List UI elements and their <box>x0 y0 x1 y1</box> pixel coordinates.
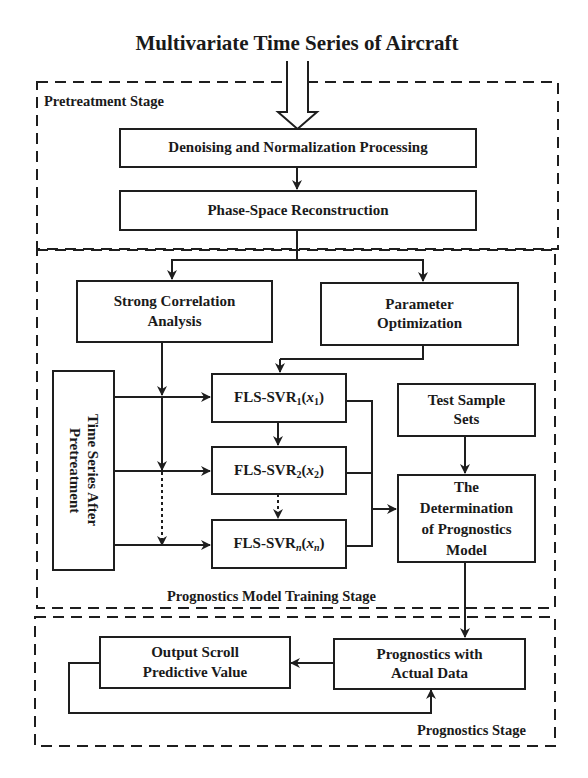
prognostics-stage-label: Prognostics Stage <box>417 722 526 739</box>
time-series-after-box: Time Series After Pretreatment <box>52 370 115 571</box>
phase-space-label: Phase-Space Reconstruction <box>207 201 388 221</box>
phase-space-box: Phase-Space Reconstruction <box>119 190 477 231</box>
output-scroll-line1: Output Scroll <box>151 643 239 663</box>
fls-svr-2-label: FLS-SVR2(x2) <box>234 461 324 481</box>
fls-svr-n-box: FLS-SVRn(xn) <box>211 519 347 569</box>
time-series-line2: Pretreatment <box>65 414 84 526</box>
output-scroll-line2: Predictive Value <box>143 663 247 683</box>
determination-line1: The <box>454 477 479 498</box>
output-scroll-box: Output Scroll Predictive Value <box>99 636 291 689</box>
parameter-optimization-line2: Optimization <box>377 314 462 334</box>
fls-svr-1-label: FLS-SVR1(x1) <box>234 388 324 408</box>
determination-line4: Model <box>446 540 487 561</box>
prognostics-actual-line1: Prognostics with <box>377 645 483 665</box>
training-stage-label: Prognostics Model Training Stage <box>167 588 376 605</box>
determination-box: The Determination of Prognostics Model <box>397 474 536 563</box>
diagram-title: Multivariate Time Series of Aircraft <box>0 31 588 55</box>
input-hollow-arrow <box>278 61 317 129</box>
strong-correlation-line2: Analysis <box>147 312 201 332</box>
test-sample-sets-box: Test Sample Sets <box>397 383 536 437</box>
pretreatment-stage-label: Pretreatment Stage <box>44 93 164 110</box>
fls-svr-n-label: FLS-SVRn(xn) <box>233 534 324 554</box>
determination-line3: of Prognostics <box>421 519 511 540</box>
test-sample-line2: Sets <box>454 410 480 430</box>
test-sample-line1: Test Sample <box>428 391 505 411</box>
prognostics-actual-box: Prognostics with Actual Data <box>333 638 526 690</box>
prognostics-actual-line2: Actual Data <box>391 664 468 684</box>
denoising-box: Denoising and Normalization Processing <box>119 128 477 168</box>
time-series-line1: Time Series After <box>84 414 103 526</box>
denoising-label: Denoising and Normalization Processing <box>168 138 427 158</box>
fls-svr-1-box: FLS-SVR1(x1) <box>211 373 347 423</box>
strong-correlation-line1: Strong Correlation <box>114 292 236 312</box>
fls-svr-2-box: FLS-SVR2(x2) <box>211 446 347 495</box>
parameter-optimization-box: Parameter Optimization <box>320 282 519 346</box>
parameter-optimization-line1: Parameter <box>385 295 453 315</box>
strong-correlation-box: Strong Correlation Analysis <box>76 280 273 343</box>
determination-line2: Determination <box>420 498 513 519</box>
